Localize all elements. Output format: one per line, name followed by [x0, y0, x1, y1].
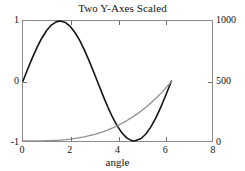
plot-area	[22, 20, 213, 142]
chart-figure: Two Y-Axes Scaled -101 05001000 02468 an…	[0, 0, 245, 171]
x-tick-label: 8	[211, 145, 216, 155]
chart-title: Two Y-Axes Scaled	[0, 2, 245, 14]
x-tick-label: 4	[115, 145, 120, 155]
x-tick-mark	[166, 21, 167, 25]
curves-svg	[23, 21, 212, 141]
y-tick-label-right: 0	[216, 137, 221, 147]
y-tick-mark-left	[23, 82, 27, 83]
series-line-sin	[23, 21, 171, 141]
y-axis-right-labels: 05001000	[216, 0, 245, 171]
x-tick-mark	[71, 137, 72, 141]
y-tick-mark-right	[208, 82, 212, 83]
x-tick-label: 0	[20, 145, 25, 155]
y-tick-label-right: 1000	[216, 15, 236, 25]
x-axis-title: angle	[22, 156, 213, 168]
y-tick-label-right: 500	[216, 76, 231, 86]
x-tick-label: 2	[67, 145, 72, 155]
series-line-cubic	[23, 81, 171, 141]
y-axis-left-labels: -101	[0, 0, 19, 171]
y-tick-label-left: 0	[14, 76, 19, 86]
x-tick-mark	[166, 137, 167, 141]
y-tick-label-left: 1	[14, 15, 19, 25]
x-tick-mark	[119, 21, 120, 25]
x-tick-mark	[71, 21, 72, 25]
x-tick-label: 6	[163, 145, 168, 155]
y-tick-label-left: -1	[11, 137, 19, 147]
x-tick-mark	[119, 137, 120, 141]
